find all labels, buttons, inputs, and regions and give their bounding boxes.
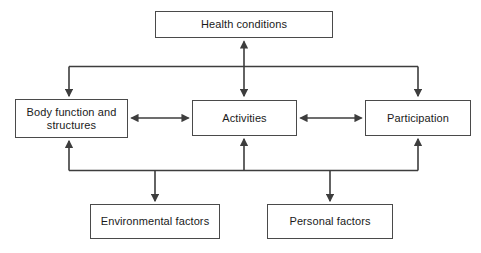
node-body-function-and-structures-label: Body function and structures [16,106,127,132]
node-personal-factors[interactable]: Personal factors [267,204,393,239]
icf-model-diagram: Health conditions Body function and stru… [0,0,481,253]
node-participation-label: Participation [366,112,470,125]
node-body-function-and-structures[interactable]: Body function and structures [15,99,128,138]
node-activities[interactable]: Activities [192,100,297,136]
node-health-conditions[interactable]: Health conditions [155,11,333,38]
node-activities-label: Activities [193,112,296,125]
node-environmental-factors[interactable]: Environmental factors [90,204,220,239]
node-participation[interactable]: Participation [365,100,471,136]
node-environmental-factors-label: Environmental factors [91,215,219,228]
node-health-conditions-label: Health conditions [156,18,332,31]
node-personal-factors-label: Personal factors [268,215,392,228]
